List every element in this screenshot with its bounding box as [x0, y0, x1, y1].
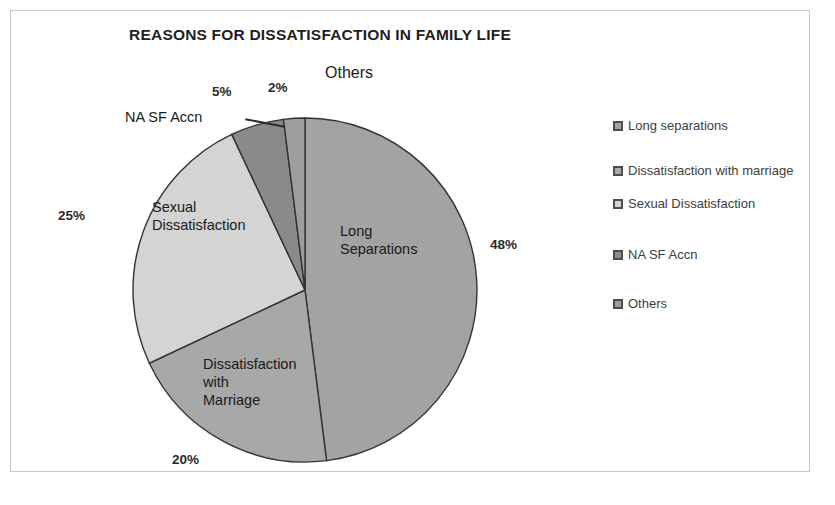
slice-label-sexual-dissatisfaction: Sexual Dissatisfaction	[152, 198, 245, 234]
legend-swatch-icon	[613, 166, 623, 176]
legend-label: Long separations	[628, 118, 728, 135]
legend-swatch-icon	[613, 199, 623, 209]
legend-item-na-sf-accn[interactable]: NA SF Accn	[613, 247, 813, 264]
legend-label: Others	[628, 296, 667, 313]
slice-label-dissatisfaction-with-marriage: Dissatisfaction with Marriage	[203, 355, 296, 409]
slice-label-long-separations: Long Separations	[340, 222, 417, 258]
legend-item-long-separations[interactable]: Long separations	[613, 118, 813, 135]
pie-chart	[130, 115, 480, 465]
legend-label: Sexual Dissatisfaction	[628, 196, 755, 213]
legend-item-others[interactable]: Others	[613, 296, 813, 313]
percent-label-long-separations: 48%	[490, 237, 517, 252]
legend-swatch-icon	[613, 299, 623, 309]
percent-label-na-sf-accn: 5%	[212, 84, 232, 99]
legend-swatch-icon	[613, 121, 623, 131]
pie-slices	[133, 118, 477, 462]
legend-label: NA SF Accn	[628, 247, 697, 264]
chart-legend: Long separations Dissatisfaction with ma…	[613, 118, 813, 318]
legend-item-sexual-dissatisfaction[interactable]: Sexual Dissatisfaction	[613, 196, 813, 213]
legend-item-dissatisfaction-with-marriage[interactable]: Dissatisfaction with marriage	[613, 163, 813, 180]
slice-long-separations[interactable]	[305, 118, 477, 461]
percent-label-sexual: 25%	[58, 208, 85, 223]
percent-label-marriage: 20%	[172, 452, 199, 467]
slice-label-na-sf-accn: NA SF Accn	[125, 108, 202, 126]
legend-swatch-icon	[613, 250, 623, 260]
percent-label-others: 2%	[268, 80, 288, 95]
chart-title: REASONS FOR DISSATISFACTION IN FAMILY LI…	[0, 26, 640, 44]
slice-label-others: Others	[325, 63, 373, 83]
legend-label: Dissatisfaction with marriage	[628, 163, 793, 180]
pie-svg	[130, 115, 480, 465]
